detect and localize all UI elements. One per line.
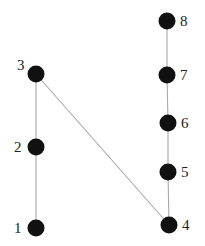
node-1 bbox=[28, 220, 45, 237]
node-label-6: 6 bbox=[181, 115, 189, 131]
node-label-4: 4 bbox=[182, 217, 190, 233]
node-label-8: 8 bbox=[180, 13, 188, 29]
node-2 bbox=[28, 139, 45, 156]
node-6 bbox=[160, 115, 177, 132]
node-3 bbox=[28, 66, 45, 83]
node-4 bbox=[161, 217, 178, 234]
node-label-3: 3 bbox=[17, 57, 25, 73]
graph-diagram: 12345678 bbox=[0, 0, 205, 246]
node-label-2: 2 bbox=[14, 139, 22, 155]
edge-layer bbox=[36, 21, 169, 228]
node-label-5: 5 bbox=[181, 164, 189, 180]
node-label-7: 7 bbox=[180, 67, 188, 83]
node-7 bbox=[159, 67, 176, 84]
graph-svg: 12345678 bbox=[0, 0, 205, 246]
node-label-1: 1 bbox=[14, 220, 22, 236]
node-5 bbox=[160, 164, 177, 181]
node-layer bbox=[28, 13, 178, 237]
node-8 bbox=[159, 13, 176, 30]
edge-3-4 bbox=[36, 74, 169, 225]
